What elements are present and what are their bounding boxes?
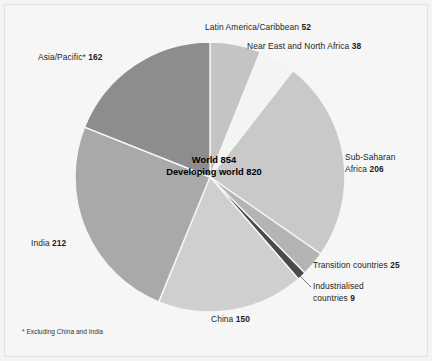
- slice-label-value: 206: [369, 164, 383, 174]
- chart-footnote: * Excluding China and India: [22, 328, 103, 335]
- slice-label-value: 9: [350, 293, 355, 303]
- slice-label-transition-countries: Transition countries 25: [313, 260, 400, 272]
- slice-label-text-line1: Industrialised: [313, 281, 364, 291]
- slice-label-industrialised-countries: Industrialised countries 9: [313, 281, 408, 304]
- center-total-world: World 854: [150, 155, 278, 167]
- slice-label-value: 38: [352, 41, 362, 51]
- center-total-developing: Developing world 820: [150, 167, 278, 179]
- slice-label-text-line2: Africa: [345, 164, 367, 174]
- slice-label-text: Near East and North Africa: [247, 41, 349, 51]
- slice-label-value: 52: [301, 22, 311, 32]
- slice-label-value: 150: [236, 314, 250, 324]
- chart-frame: Latin America/Caribbean 52 Near East and…: [0, 0, 432, 361]
- slice-label-text: India: [31, 238, 50, 248]
- slice-label-text: China: [211, 314, 233, 324]
- slice-label-text: Asia/Pacific*: [38, 52, 86, 62]
- slice-label-china: China 150: [211, 314, 250, 326]
- slice-label-value: 162: [88, 52, 102, 62]
- slice-label-text: Transition countries: [313, 260, 388, 270]
- slice-label-text-line2: countries: [313, 293, 348, 303]
- slice-label-value: 25: [390, 260, 400, 270]
- pie-center-total: World 854 Developing world 820: [150, 155, 278, 178]
- slice-label-value: 212: [52, 238, 66, 248]
- slice-label-near-east: Near East and North Africa 38: [247, 41, 361, 53]
- slice-label-text: Latin America/Caribbean: [205, 22, 299, 32]
- slice-label-asia-pacific: Asia/Pacific* 162: [38, 52, 103, 64]
- slice-label-sub-saharan-africa: Sub-Saharan Africa 206: [345, 152, 425, 175]
- slice-label-india: India 212: [31, 238, 66, 250]
- slice-label-latin-america: Latin America/Caribbean 52: [205, 22, 311, 34]
- slice-label-text-line1: Sub-Saharan: [345, 152, 395, 162]
